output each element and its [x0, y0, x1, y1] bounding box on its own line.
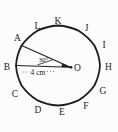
center-point-dot: [70, 66, 73, 69]
angle-value-label: 30°: [39, 56, 49, 64]
vertex-label-a: A: [14, 33, 21, 43]
geometry-figure: A B C D E F G H I J K L O 30° 4 cm: [0, 0, 118, 132]
vertex-label-f: F: [83, 101, 88, 111]
vertex-label-i: I: [102, 40, 105, 50]
vertex-label-j: J: [85, 23, 89, 33]
vertex-label-e: E: [59, 107, 65, 117]
angle-vertex-wedge: [62, 64, 71, 68]
vertex-label-k: K: [55, 16, 62, 26]
vertex-label-b: B: [4, 62, 10, 72]
vertex-label-h: H: [105, 62, 112, 72]
center-label-o: O: [74, 63, 81, 73]
vertex-label-c: C: [12, 89, 18, 99]
vertex-label-d: D: [35, 105, 42, 115]
vertex-label-l: L: [35, 21, 41, 31]
vertex-label-g: G: [100, 86, 107, 96]
radius-value-label: 4 cm: [31, 68, 46, 77]
dodecagon-circle-diagram: A B C D E F G H I J K L O 30° 4 cm: [0, 0, 118, 132]
